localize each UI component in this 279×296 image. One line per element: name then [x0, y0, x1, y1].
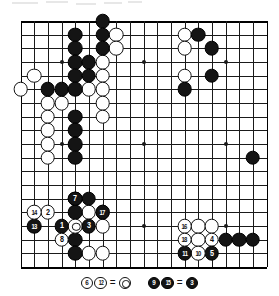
- black-stone[interactable]: [68, 109, 83, 124]
- black-stone[interactable]: [68, 205, 83, 220]
- scan-smudge: [12, 2, 38, 4]
- move-stone-5[interactable]: 5: [205, 246, 220, 261]
- black-stone[interactable]: [205, 68, 220, 83]
- move-stone-10[interactable]: 10: [191, 246, 206, 261]
- white-stone[interactable]: [95, 96, 110, 111]
- caption-stone-12: 12: [94, 277, 106, 289]
- white-stone[interactable]: [27, 68, 42, 83]
- white-stone[interactable]: [41, 137, 56, 152]
- black-stone[interactable]: [68, 232, 83, 247]
- caption-stone-label: 12: [98, 280, 103, 287]
- black-stone[interactable]: [95, 27, 110, 42]
- grid-line-horizontal: [21, 267, 267, 269]
- go-diagram-root: 123457810111314161718 612=915=3: [0, 0, 279, 296]
- white-stone[interactable]: [177, 68, 192, 83]
- move-number-label: 8: [60, 236, 64, 244]
- black-stone[interactable]: [232, 232, 247, 247]
- move-stone-3[interactable]: 3: [82, 219, 97, 234]
- move-number-label: 11: [182, 250, 187, 257]
- move-number-label: 13: [31, 222, 36, 229]
- white-stone[interactable]: [54, 96, 69, 111]
- white-stone[interactable]: [41, 150, 56, 165]
- move-stone-4[interactable]: 4: [205, 232, 220, 247]
- grid-line-horizontal: [21, 158, 267, 159]
- black-stone[interactable]: [41, 82, 56, 97]
- white-stone[interactable]: [95, 246, 110, 261]
- caption-stone-label: 9: [152, 279, 156, 286]
- black-stone[interactable]: [68, 137, 83, 152]
- white-stone[interactable]: [191, 232, 206, 247]
- white-stone[interactable]: [82, 246, 97, 261]
- white-stone[interactable]: [109, 27, 124, 42]
- black-stone[interactable]: [95, 14, 110, 29]
- move-stone-18[interactable]: 18: [177, 232, 192, 247]
- move-stone-16[interactable]: 16: [177, 219, 192, 234]
- white-stone[interactable]: [95, 82, 110, 97]
- black-stone[interactable]: [68, 55, 83, 70]
- black-stone[interactable]: [54, 82, 69, 97]
- black-stone[interactable]: [68, 150, 83, 165]
- white-stone[interactable]: [177, 27, 192, 42]
- move-stone-17[interactable]: 17: [95, 205, 110, 220]
- star-point: [224, 142, 228, 146]
- black-stone[interactable]: [191, 27, 206, 42]
- grid-line-horizontal: [21, 171, 267, 172]
- move-stone-8[interactable]: 8: [54, 232, 69, 247]
- move-number-label: 18: [182, 236, 187, 243]
- black-stone[interactable]: [68, 246, 83, 261]
- black-stone[interactable]: [95, 41, 110, 56]
- move-number-label: 4: [210, 236, 214, 244]
- go-board[interactable]: 123457810111314161718: [21, 21, 267, 267]
- move-stone-1[interactable]: 1: [54, 219, 69, 234]
- black-stone[interactable]: [68, 27, 83, 42]
- move-stone-14[interactable]: 14: [27, 205, 42, 220]
- grid-line-vertical: [171, 21, 172, 267]
- white-stone[interactable]: [41, 109, 56, 124]
- white-stone[interactable]: [109, 41, 124, 56]
- black-stone[interactable]: [82, 68, 97, 83]
- black-stone[interactable]: [68, 41, 83, 56]
- black-stone[interactable]: [82, 55, 97, 70]
- black-stone[interactable]: [68, 82, 83, 97]
- white-stone[interactable]: [95, 55, 110, 70]
- black-stone[interactable]: [177, 82, 192, 97]
- diagram-caption: 612=915=3: [0, 272, 279, 294]
- move-stone-2[interactable]: 2: [41, 205, 56, 220]
- white-repeat-note: 612=: [81, 277, 131, 289]
- move-number-label: 14: [31, 209, 36, 216]
- white-stone[interactable]: [177, 41, 192, 56]
- black-stone[interactable]: [68, 68, 83, 83]
- white-stone[interactable]: [41, 96, 56, 111]
- white-stone[interactable]: [95, 219, 110, 234]
- white-stone[interactable]: [191, 219, 206, 234]
- black-repeat-note: 915=3: [148, 277, 198, 289]
- black-stone[interactable]: [246, 232, 261, 247]
- caption-stone-label: 6: [85, 279, 89, 286]
- grid-line-horizontal: [21, 253, 267, 254]
- star-point: [60, 142, 64, 146]
- scan-artifact: [0, 0, 279, 9]
- white-stone[interactable]: [95, 68, 110, 83]
- white-stone[interactable]: [13, 82, 28, 97]
- white-stone[interactable]: [95, 109, 110, 124]
- move-number-label: 17: [100, 209, 105, 216]
- star-point: [142, 60, 146, 64]
- white-stone[interactable]: [82, 82, 97, 97]
- black-stone[interactable]: [68, 123, 83, 138]
- white-stone[interactable]: [41, 123, 56, 138]
- move-stone-11[interactable]: 11: [177, 246, 192, 261]
- move-number-label: 10: [195, 250, 200, 257]
- black-stone[interactable]: [246, 150, 261, 165]
- grid-line-horizontal: [21, 212, 267, 213]
- black-stone[interactable]: [205, 41, 220, 56]
- move-number-label: 2: [46, 208, 50, 216]
- black-stone[interactable]: [218, 232, 233, 247]
- scan-smudge: [128, 1, 142, 3]
- move-stone-13[interactable]: 13: [27, 219, 42, 234]
- white-stone[interactable]: [205, 219, 220, 234]
- black-stone[interactable]: [82, 191, 97, 206]
- grid-line-vertical: [253, 21, 254, 267]
- white-stone[interactable]: [82, 205, 97, 220]
- move-stone-7[interactable]: 7: [68, 191, 83, 206]
- star-point: [142, 224, 146, 228]
